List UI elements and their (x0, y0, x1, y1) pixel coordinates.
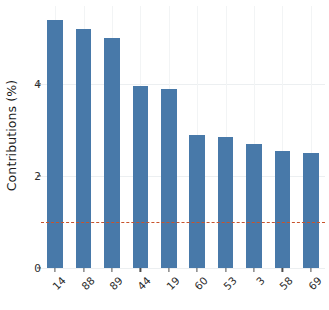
x-tick-label-53[interactable]: 53 (221, 275, 238, 292)
x-tick-label-3[interactable]: 3 (254, 275, 266, 287)
x-tick-label-88[interactable]: 88 (79, 275, 96, 292)
bar-88[interactable] (76, 29, 92, 268)
bar-60[interactable] (189, 135, 205, 268)
x-tick-mark-14 (55, 268, 56, 272)
bar-19[interactable] (161, 89, 177, 268)
x-axis-tick-labels: 1488894419605335869 (41, 268, 325, 310)
bar-89[interactable] (104, 38, 120, 268)
x-tick-label-69[interactable]: 69 (306, 275, 323, 292)
x-tick-label-89[interactable]: 89 (108, 275, 125, 292)
x-tick-label-60[interactable]: 60 (193, 275, 210, 292)
bar-3[interactable] (246, 144, 262, 268)
x-tick-label-58[interactable]: 58 (278, 275, 295, 292)
x-tick-mark-88 (83, 268, 84, 272)
x-tick-label-19[interactable]: 19 (164, 275, 181, 292)
x-tick-mark-89 (111, 268, 112, 272)
x-tick-label-44[interactable]: 44 (136, 275, 153, 292)
x-tick-mark-60 (197, 268, 198, 272)
x-tick-mark-44 (140, 268, 141, 272)
y-tick-mark-2 (37, 175, 41, 176)
bar-53[interactable] (218, 137, 234, 268)
bar-69[interactable] (303, 153, 319, 268)
x-tick-label-14[interactable]: 14 (51, 275, 68, 292)
x-tick-mark-53 (225, 268, 226, 272)
bar-14[interactable] (47, 20, 63, 268)
contributions-bar-chart: Contributions (%) 024 148889441960533586… (0, 0, 329, 310)
x-tick-mark-69 (310, 268, 311, 272)
x-tick-mark-19 (168, 268, 169, 272)
plot-area (41, 6, 325, 268)
reference-line (41, 222, 325, 223)
y-tick-mark-0 (37, 267, 41, 268)
x-tick-mark-58 (282, 268, 283, 272)
x-tick-mark-3 (253, 268, 254, 272)
bar-58[interactable] (275, 151, 291, 268)
y-tick-mark-4 (37, 84, 41, 85)
bar-44[interactable] (133, 86, 149, 268)
